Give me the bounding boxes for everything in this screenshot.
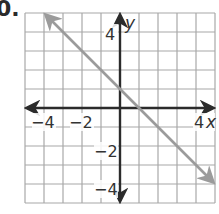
plotted-line [46, 15, 213, 182]
coordinate-plane: −4 −2 4 x 4 y −2 −4 [0, 0, 219, 214]
y-tick-4: 4 [105, 25, 115, 44]
y-tick-neg4: −4 [94, 180, 118, 199]
x-tick-4: 4 [194, 113, 204, 132]
y-tick-neg2: −2 [94, 142, 118, 161]
x-tick-neg2: −2 [69, 113, 93, 132]
y-axis-label: y [124, 13, 136, 33]
x-tick-neg4: −4 [31, 113, 55, 132]
x-axis-label: x [205, 112, 217, 132]
